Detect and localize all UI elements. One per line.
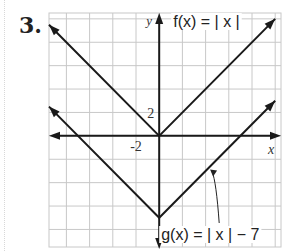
- y-axis-label: y: [144, 13, 152, 28]
- g-function-label: g(x) = | x | − 7: [161, 226, 259, 243]
- y-tick-label: 2: [147, 106, 154, 121]
- series: [49, 19, 275, 218]
- f-function-label: f(x) = | x |: [173, 13, 240, 30]
- x-axis-label: x: [267, 142, 275, 157]
- f-function-line: [49, 19, 275, 136]
- x-tick-label: -2: [130, 139, 142, 154]
- graph: x y -2 2 f(x) = | x | g(x) = | x | − 7: [0, 0, 285, 251]
- annotation-arrowhead: [210, 169, 217, 176]
- annotation-arrow: [212, 171, 219, 223]
- x-axis-arrow-left: [49, 132, 60, 140]
